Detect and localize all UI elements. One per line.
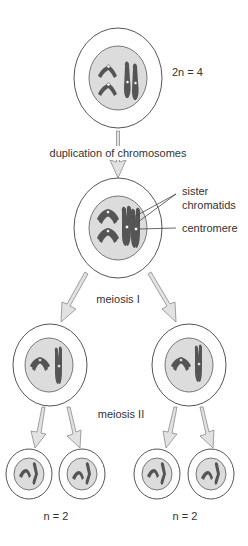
- ploidy-label-top: 2n = 4: [172, 66, 203, 78]
- duplicated-cell: [74, 178, 176, 278]
- meiosis1-daughter-right: [152, 324, 226, 406]
- parent-cell: [74, 28, 162, 128]
- ploidy-label-bottom-left: n = 2: [44, 510, 69, 522]
- meiosis1-label: meiosis I: [96, 293, 139, 305]
- duplication-label: duplication of chromosomes: [50, 147, 187, 159]
- gamete-2: [59, 449, 105, 499]
- arrow-meiosis1-left: [61, 272, 88, 322]
- arrow-meiosis2-2: [67, 407, 81, 448]
- chromatids-label: chromatids: [182, 199, 236, 211]
- ploidy-label-bottom-right: n = 2: [173, 510, 198, 522]
- meiosis2-label: meiosis II: [98, 408, 144, 420]
- sister-label: sister: [182, 185, 209, 197]
- meiosis1-daughter-left: [13, 324, 87, 406]
- arrow-meiosis1-right: [148, 272, 176, 322]
- arrow-meiosis2-1: [31, 407, 46, 448]
- centromere-label: centromere: [182, 222, 238, 234]
- arrow-meiosis2-4: [200, 407, 214, 448]
- arrow-meiosis2-3: [163, 407, 177, 448]
- gamete-1: [6, 449, 52, 499]
- meiosis-diagram: 2n = 4 duplication of chromosomes: [0, 0, 248, 546]
- gamete-4: [188, 449, 234, 499]
- nucleus: [89, 46, 147, 110]
- gamete-3: [134, 449, 180, 499]
